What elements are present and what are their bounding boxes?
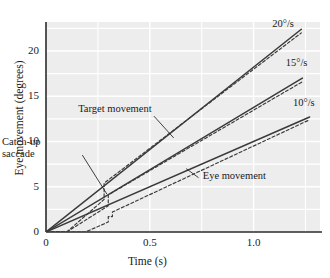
y-axis-title: Eye movement (degrees) (13, 48, 25, 188)
series-label-20-deg-per-s: 20°/s (272, 18, 294, 29)
annotation-catch-up-saccade: Catch-up saccade (2, 136, 41, 160)
x-tick-label-1.0: 1.0 (234, 236, 274, 248)
x-tick-label-0: 0 (26, 236, 66, 248)
x-axis-title: Time (s) (128, 255, 167, 267)
plot-background (46, 22, 320, 232)
annotation-eye-movement: Eye movement (203, 170, 266, 182)
x-tick-label-0.5: 0.5 (130, 236, 170, 248)
chart-figure: 05101520 00.51.0 Eye movement (degrees) … (0, 0, 330, 278)
annotation-target-movement: Target movement (78, 103, 151, 115)
annotation-catch-up-saccade-line2: saccade (2, 148, 41, 160)
series-label-10-deg-per-s: 10°/s (293, 97, 315, 108)
annotation-catch-up-saccade-line1: Catch-up (2, 136, 41, 148)
series-label-15-deg-per-s: 15°/s (286, 57, 308, 68)
